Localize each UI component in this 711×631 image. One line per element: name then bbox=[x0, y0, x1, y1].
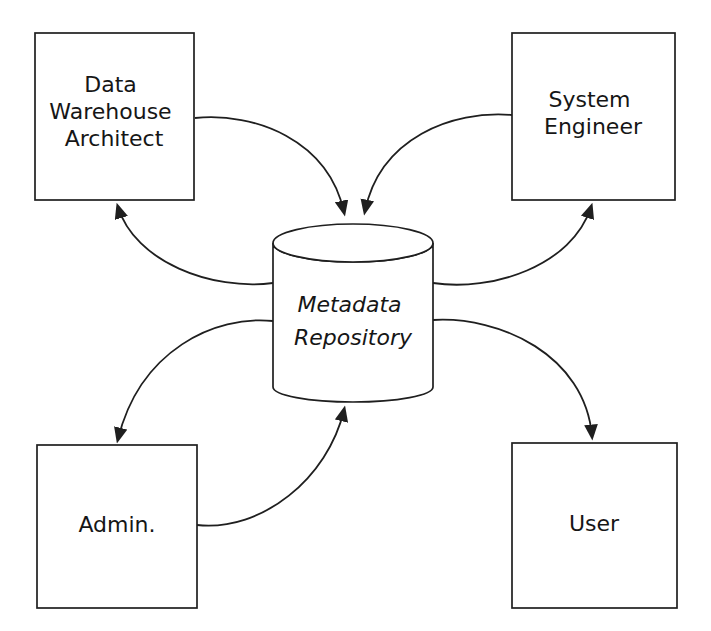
edge-repository-to-user bbox=[433, 320, 592, 436]
node-user: User bbox=[512, 443, 677, 608]
label-line: Warehouse bbox=[49, 99, 171, 124]
edge-repository-to-engineer bbox=[433, 207, 591, 285]
edge-repository-to-admin bbox=[118, 320, 273, 439]
admin-label: Admin. bbox=[78, 512, 155, 537]
node-data-warehouse-architect: Data Warehouse Architect bbox=[35, 33, 194, 200]
label-line: Metadata bbox=[297, 292, 401, 317]
repository-cylinder-top bbox=[273, 224, 433, 262]
edge-engineer-to-repository bbox=[365, 114, 512, 211]
repository-cylinder-body bbox=[273, 243, 433, 402]
edge-architect-to-repository bbox=[195, 117, 344, 212]
label-line: User bbox=[569, 511, 620, 536]
label-line: System bbox=[548, 87, 630, 112]
label-line: Repository bbox=[294, 325, 413, 350]
edge-repository-to-architect bbox=[118, 207, 273, 284]
diagram-canvas: Data Warehouse Architect System Engineer… bbox=[0, 0, 711, 631]
node-admin: Admin. bbox=[37, 445, 197, 608]
user-label: User bbox=[569, 511, 620, 536]
edge-admin-to-repository bbox=[197, 410, 344, 526]
label-line: Architect bbox=[65, 126, 164, 151]
label-line: Engineer bbox=[544, 114, 643, 139]
label-line: Data bbox=[84, 72, 137, 97]
label-line: Admin. bbox=[78, 512, 155, 537]
node-system-engineer: System Engineer bbox=[512, 33, 675, 200]
node-metadata-repository: Metadata Repository bbox=[273, 224, 433, 402]
metadata-repository-diagram: Data Warehouse Architect System Engineer… bbox=[0, 0, 711, 631]
